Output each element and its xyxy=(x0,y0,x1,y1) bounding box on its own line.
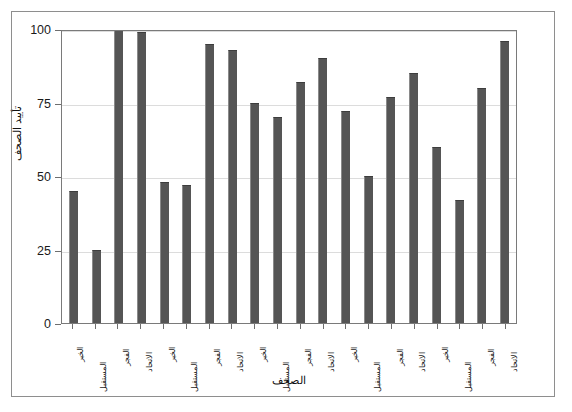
x-axis-tick-labels: الخبرالمستقبلالفجرالاتحادالخبرالمستقبلال… xyxy=(61,330,517,376)
bar xyxy=(477,88,486,323)
bar xyxy=(386,97,395,323)
bar xyxy=(409,73,418,323)
bar xyxy=(296,82,305,323)
x-axis-tick xyxy=(277,324,278,329)
y-axis-tick-labels: 0255075100 xyxy=(0,30,61,324)
x-axis-tick xyxy=(231,324,232,329)
bar xyxy=(432,147,441,323)
x-axis-tick xyxy=(163,324,164,329)
x-axis-tick xyxy=(95,324,96,329)
bar xyxy=(273,117,282,323)
bar xyxy=(250,103,259,324)
bar xyxy=(137,32,146,323)
x-axis-title: الصحف xyxy=(61,374,517,387)
bar xyxy=(92,250,101,324)
x-axis-tick xyxy=(300,324,301,329)
x-axis-tick xyxy=(117,324,118,329)
x-axis-ticks xyxy=(61,324,517,329)
y-axis-tick-label: 50 xyxy=(37,170,51,184)
x-axis-tick xyxy=(140,324,141,329)
x-axis-tick xyxy=(186,324,187,329)
bar-series xyxy=(62,31,516,323)
bar xyxy=(318,58,327,323)
x-axis-tick xyxy=(209,324,210,329)
x-axis-tick xyxy=(368,324,369,329)
x-axis-tick xyxy=(391,324,392,329)
bar xyxy=(341,111,350,323)
x-axis-tick xyxy=(459,324,460,329)
x-axis-tick xyxy=(482,324,483,329)
x-axis-tick xyxy=(414,324,415,329)
x-axis-tick xyxy=(437,324,438,329)
bar xyxy=(455,200,464,323)
bar xyxy=(69,191,78,323)
bar xyxy=(228,50,237,323)
bar xyxy=(160,182,169,323)
y-axis-tick-label: 0 xyxy=(44,317,51,331)
bar xyxy=(500,41,509,323)
x-axis-tick xyxy=(345,324,346,329)
y-axis-tick-label: 100 xyxy=(30,23,51,37)
y-axis-tick-label: 25 xyxy=(37,244,51,258)
bar xyxy=(114,30,123,323)
plot-area xyxy=(61,30,517,324)
bar xyxy=(364,176,373,323)
bar xyxy=(182,185,191,323)
chart-figure: تأييد الصحف 0255075100 الخبرالمستقبلالفج… xyxy=(0,0,572,412)
y-axis-tick-label: 75 xyxy=(37,97,51,111)
x-axis-tick xyxy=(72,324,73,329)
x-axis-tick xyxy=(505,324,506,329)
bar xyxy=(205,44,214,323)
x-axis-tick xyxy=(254,324,255,329)
x-axis-tick xyxy=(323,324,324,329)
